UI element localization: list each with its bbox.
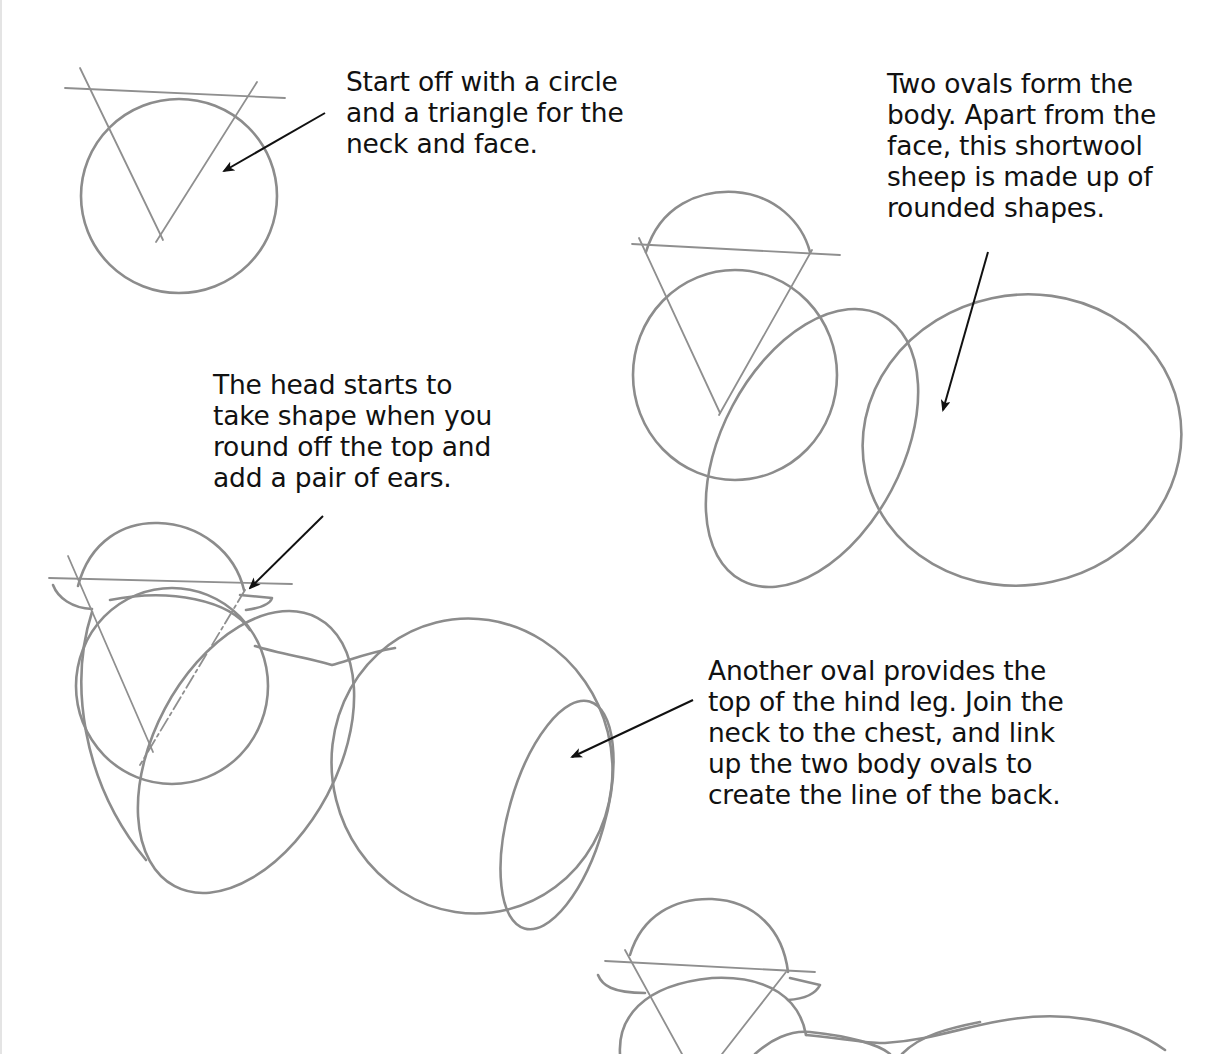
triangle-left-side [625,950,682,1054]
head-top-arc [646,192,810,252]
chest-oval [93,575,398,930]
triangle-right-side [140,590,245,765]
head-outline [110,595,250,630]
caption-line: rounded shapes. [887,192,1156,223]
triangle-right-side [156,82,257,242]
caption-line: face, this shortwool [887,130,1156,161]
sketch-step-2 [632,192,1209,623]
arrow-icon [943,252,988,410]
caption-step-4: Another oval provides the top of the hin… [708,655,1064,810]
caption-line: body. Apart from the [887,99,1156,130]
hind-leg-oval [478,688,635,941]
right-ear [240,595,272,610]
head-circle [620,978,806,1054]
right-ear [788,978,820,1000]
caption-line: create the line of the back. [708,779,1064,810]
caption-step-2: Two ovals form the body. Apart from the … [887,68,1156,223]
body-oval [300,589,643,944]
caption-step-3: The head starts to take shape when you r… [213,369,492,493]
sketch-step-1 [65,68,325,293]
back-line [806,1016,1165,1050]
arrow-icon [224,113,325,171]
triangle-left-side [639,238,720,413]
head-circle [633,270,837,480]
arrow-icon [572,700,693,757]
caption-line: round off the top and [213,431,492,462]
caption-line: The head starts to [213,369,492,400]
caption-line: add a pair of ears. [213,462,492,493]
chest-oval [662,273,962,622]
triangle-right-side [722,972,786,1054]
left-ear [598,975,645,993]
sketch-step-4 [598,899,1165,1054]
caption-line: neck and face. [346,128,624,159]
caption-line: Another oval provides the [708,655,1064,686]
arrow-icon [250,516,323,588]
body-oval [835,265,1208,615]
back-line [255,646,395,665]
caption-line: up the two body ovals to [708,748,1064,779]
caption-line: Two ovals form the [887,68,1156,99]
caption-line: sheep is made up of [887,161,1156,192]
face-outline [81,612,146,860]
caption-line: and a triangle for the [346,97,624,128]
caption-step-1: Start off with a circle and a triangle f… [346,66,624,159]
sketch-step-3 [49,516,693,943]
caption-line: take shape when you [213,400,492,431]
triangle-left-side [80,68,163,240]
caption-line: top of the hind leg. Join the [708,686,1064,717]
head-top-arc [630,899,788,972]
caption-line: Start off with a circle [346,66,624,97]
head-circle [81,99,277,293]
caption-line: neck to the chest, and link [708,717,1064,748]
